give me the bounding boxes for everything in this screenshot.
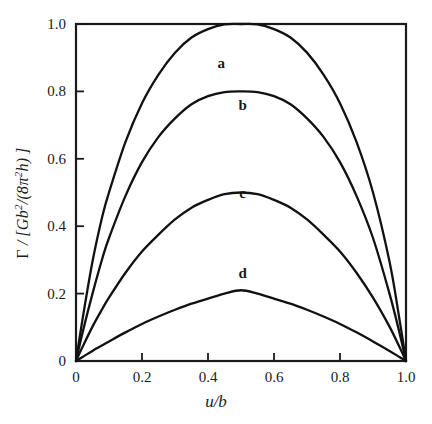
data-curves — [76, 24, 406, 361]
curve-c — [76, 193, 406, 362]
chart-figure: Γ / [Gb2/(8π2h) ] u/b 00.20.40.60.81.0 0… — [0, 0, 432, 424]
plot-area — [0, 0, 432, 424]
curve-d — [76, 290, 406, 361]
axis-ticks — [76, 24, 340, 361]
curve-b — [76, 91, 406, 361]
